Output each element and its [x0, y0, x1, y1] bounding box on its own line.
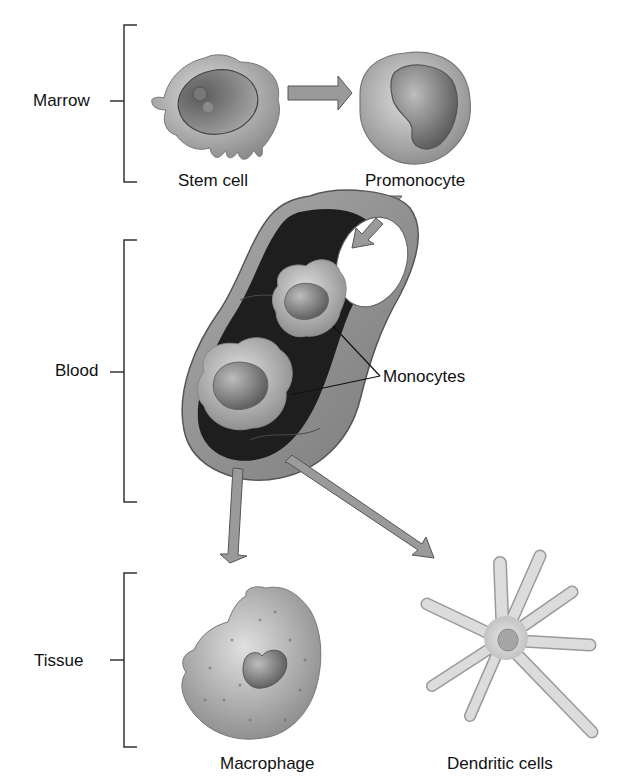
stem-cell-illustration — [152, 55, 280, 159]
monocyte-differentiation-diagram — [0, 0, 625, 783]
arrow-blood-to-dendritic — [285, 455, 434, 558]
promonocyte-illustration — [360, 52, 470, 164]
monocyte-lower — [197, 338, 292, 430]
bracket-blood — [110, 240, 137, 502]
stage-label-marrow: Marrow — [33, 91, 90, 111]
bracket-marrow — [110, 25, 137, 182]
cell-label-stem-cell: Stem cell — [178, 171, 248, 191]
cell-label-macrophage: Macrophage — [220, 754, 315, 774]
cell-label-monocytes: Monocytes — [383, 367, 465, 387]
cell-label-promonocyte: Promonocyte — [365, 171, 465, 191]
bracket-tissue — [110, 573, 137, 747]
stage-label-blood: Blood — [55, 361, 98, 381]
dendritic-cell-illustration — [427, 556, 592, 732]
macrophage-illustration — [182, 587, 321, 739]
arrow-stem-to-promonocyte — [288, 76, 352, 110]
cell-label-dendritic-cells: Dendritic cells — [447, 754, 553, 774]
stage-label-tissue: Tissue — [34, 651, 83, 671]
blood-vessel-illustration — [182, 190, 420, 480]
arrow-blood-to-macrophage — [220, 468, 247, 563]
